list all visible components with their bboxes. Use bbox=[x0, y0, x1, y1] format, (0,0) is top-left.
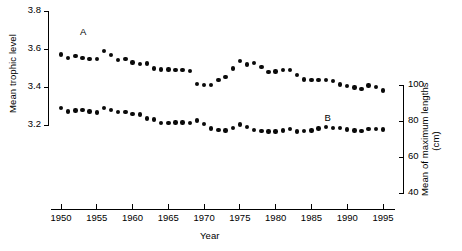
data-point-a bbox=[102, 49, 106, 53]
data-point-b bbox=[145, 116, 149, 120]
data-point-a bbox=[202, 83, 206, 87]
data-point-a bbox=[252, 61, 256, 65]
x-axis-tick bbox=[383, 204, 384, 209]
data-point-b bbox=[102, 106, 106, 110]
data-point-b bbox=[159, 121, 163, 125]
data-point-b bbox=[331, 126, 335, 130]
series-label-a: A bbox=[80, 26, 86, 37]
data-point-b bbox=[316, 126, 320, 130]
data-point-a bbox=[281, 68, 285, 72]
data-point-b bbox=[80, 108, 84, 112]
data-point-a bbox=[180, 68, 184, 72]
left-axis-spine bbox=[48, 11, 49, 125]
x-axis-tick-label: 1950 bbox=[44, 212, 78, 223]
x-axis-tick bbox=[96, 204, 97, 209]
data-point-a bbox=[295, 73, 299, 77]
data-point-b bbox=[352, 128, 356, 132]
data-point-a bbox=[366, 83, 370, 87]
data-point-b bbox=[295, 129, 299, 133]
data-point-a bbox=[352, 85, 356, 89]
data-point-b bbox=[381, 127, 385, 131]
data-point-b bbox=[195, 118, 199, 122]
data-point-b bbox=[73, 108, 77, 112]
data-point-b bbox=[123, 110, 127, 114]
data-point-b bbox=[202, 122, 206, 126]
data-point-a bbox=[245, 62, 249, 66]
data-point-a bbox=[66, 56, 70, 60]
data-point-b bbox=[245, 125, 249, 129]
data-point-a bbox=[159, 67, 163, 71]
data-point-a bbox=[87, 57, 91, 61]
data-point-a bbox=[316, 78, 320, 82]
x-axis-tick-label: 1965 bbox=[151, 212, 185, 223]
data-point-b bbox=[173, 120, 177, 124]
data-point-a bbox=[302, 77, 306, 81]
data-point-a bbox=[381, 88, 385, 92]
data-point-b bbox=[116, 110, 120, 114]
x-axis-tick bbox=[275, 204, 276, 209]
left-axis-tick-label: 3.6 bbox=[15, 42, 41, 53]
right-axis-tick-label: 60 bbox=[408, 150, 434, 161]
data-point-a bbox=[259, 65, 263, 69]
x-axis-tick-label: 1985 bbox=[294, 212, 328, 223]
right-axis-tick bbox=[399, 193, 404, 194]
data-point-b bbox=[216, 128, 220, 132]
data-point-a bbox=[331, 79, 335, 83]
data-point-a bbox=[266, 70, 270, 74]
data-point-b bbox=[95, 110, 99, 114]
left-axis-tick-label: 3.4 bbox=[15, 80, 41, 91]
data-point-a bbox=[209, 83, 213, 87]
data-point-a bbox=[195, 82, 199, 86]
x-axis-tick-label: 1990 bbox=[330, 212, 364, 223]
data-point-a bbox=[152, 66, 156, 70]
data-point-a bbox=[345, 84, 349, 88]
left-axis-tick bbox=[44, 11, 49, 12]
data-point-b bbox=[266, 129, 270, 133]
left-axis-tick-label: 3.8 bbox=[15, 4, 41, 15]
data-point-a bbox=[123, 57, 127, 61]
left-axis-tick bbox=[44, 87, 49, 88]
data-point-a bbox=[73, 54, 77, 58]
data-point-a bbox=[173, 68, 177, 72]
data-point-b bbox=[188, 121, 192, 125]
right-axis-tick bbox=[399, 121, 404, 122]
plot-area: 3.23.43.63.84060801001950195519601965197… bbox=[0, 0, 462, 251]
data-point-a bbox=[238, 59, 242, 63]
data-point-b bbox=[338, 126, 342, 130]
data-point-a bbox=[374, 85, 378, 89]
x-axis-tick-label: 1970 bbox=[187, 212, 221, 223]
right-axis-tick-label: 40 bbox=[408, 186, 434, 197]
series-label-b: B bbox=[325, 112, 331, 123]
x-axis-spine bbox=[51, 209, 395, 210]
data-point-b bbox=[281, 128, 285, 132]
data-point-b bbox=[138, 112, 142, 116]
data-point-a bbox=[216, 78, 220, 82]
data-point-b bbox=[366, 127, 370, 131]
data-point-a bbox=[338, 82, 342, 86]
x-axis-tick-label: 1955 bbox=[80, 212, 114, 223]
data-point-a bbox=[59, 52, 63, 56]
x-axis-tick-label: 1975 bbox=[223, 212, 257, 223]
chart-figure: Mean trophic level Mean of maximum lengt… bbox=[0, 0, 462, 251]
x-axis-tick bbox=[311, 204, 312, 209]
x-axis-tick bbox=[204, 204, 205, 209]
data-point-b bbox=[374, 127, 378, 131]
left-axis-tick bbox=[44, 125, 49, 126]
data-point-b bbox=[273, 129, 277, 133]
data-point-a bbox=[116, 58, 120, 62]
data-point-b bbox=[345, 127, 349, 131]
data-point-b bbox=[288, 127, 292, 131]
data-point-a bbox=[288, 68, 292, 72]
data-point-a bbox=[324, 78, 328, 82]
data-point-b bbox=[252, 128, 256, 132]
data-point-b bbox=[130, 112, 134, 116]
data-point-b bbox=[231, 126, 235, 130]
data-point-a bbox=[130, 60, 134, 64]
data-point-a bbox=[273, 69, 277, 73]
x-axis-tick bbox=[61, 204, 62, 209]
data-point-b bbox=[259, 129, 263, 133]
data-point-a bbox=[80, 56, 84, 60]
data-point-a bbox=[166, 67, 170, 71]
x-axis-tick bbox=[168, 204, 169, 209]
x-axis-tick-label: 1980 bbox=[259, 212, 293, 223]
